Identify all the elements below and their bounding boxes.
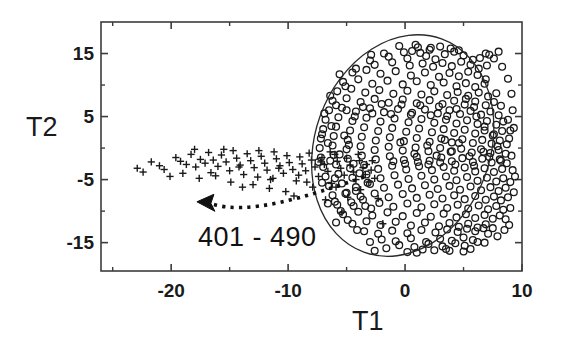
x-tick-label: -20 [157, 280, 185, 302]
scatter-plot-figure: -20-10010155-5-15 T2 T1 401 - 490 [0, 0, 569, 346]
y-tick-label: 15 [60, 43, 94, 65]
y-axis-title: T2 [26, 112, 58, 143]
y-tick-label: 5 [60, 106, 94, 128]
batch-range-annotation: 401 - 490 [198, 222, 317, 253]
x-tick-label: -10 [274, 280, 302, 302]
y-tick-label: -5 [60, 169, 94, 191]
x-axis-title: T1 [352, 306, 384, 337]
y-tick-label: -15 [60, 232, 94, 254]
x-tick-label: 10 [508, 280, 536, 302]
x-tick-label: 0 [391, 280, 419, 302]
